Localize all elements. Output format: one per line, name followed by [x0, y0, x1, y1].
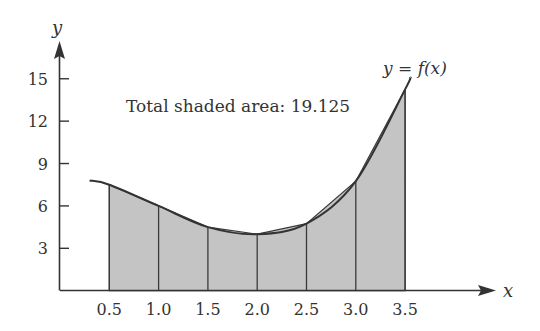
- y-tick-label: 9: [38, 155, 48, 174]
- y-ticks: 3691215: [28, 70, 69, 259]
- y-tick-label: 15: [28, 70, 48, 89]
- curve-label: y = f(x): [382, 58, 447, 78]
- y-tick-label: 12: [28, 112, 48, 131]
- x-axis-label: x: [503, 280, 513, 301]
- x-tick-label: 0.5: [97, 300, 122, 319]
- y-tick-label: 6: [38, 197, 48, 216]
- shaded-trapezoids: [109, 89, 405, 290]
- y-axis-label: y: [51, 17, 63, 38]
- trapezoid-area-chart: 3691215 0.51.01.52.02.53.03.5 y x y = f(…: [0, 0, 540, 331]
- total-area-annotation: Total shaded area: 19.125: [126, 96, 350, 116]
- x-tick-label: 2.5: [294, 300, 319, 319]
- x-ticks: 0.51.01.52.02.53.03.5: [97, 300, 418, 319]
- x-tick-label: 1.5: [195, 300, 220, 319]
- x-tick-label: 3.0: [343, 300, 368, 319]
- x-tick-label: 3.5: [392, 300, 417, 319]
- x-tick-label: 1.0: [146, 300, 171, 319]
- y-tick-label: 3: [38, 239, 48, 258]
- x-tick-label: 2.0: [244, 300, 269, 319]
